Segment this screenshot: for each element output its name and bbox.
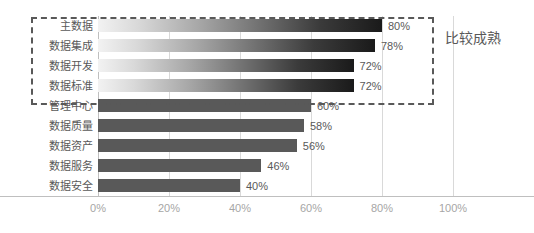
x-axis-line [0, 196, 534, 197]
bar [98, 79, 354, 92]
category-label: 数据集成 [0, 38, 93, 54]
bar [98, 139, 297, 152]
bar-row: 管理中心60% [0, 96, 534, 116]
category-label: 数据质量 [0, 118, 93, 134]
bar-value-label: 56% [303, 138, 325, 154]
bar-row: 数据安全40% [0, 176, 534, 196]
mature-group-annotation: 比较成熟 [445, 28, 501, 48]
category-label: 数据安全 [0, 178, 93, 194]
maturity-bar-chart: 主数据80%数据集成78%数据开发72%数据标准72%管理中心60%数据质量58… [0, 0, 534, 233]
category-label: 数据开发 [0, 58, 93, 74]
x-tick-label: 40% [210, 200, 270, 216]
category-label: 数据资产 [0, 138, 93, 154]
bar [98, 119, 304, 132]
bar-value-label: 40% [246, 178, 268, 194]
bar-value-label: 60% [317, 98, 339, 114]
bar-row: 数据开发72% [0, 56, 534, 76]
bar-value-label: 78% [381, 38, 403, 54]
category-label: 主数据 [0, 18, 93, 34]
bar-value-label: 58% [310, 118, 332, 134]
bar-row: 数据标准72% [0, 76, 534, 96]
x-tick-label: 80% [352, 200, 412, 216]
bar [98, 99, 311, 112]
x-tick-label: 60% [281, 200, 341, 216]
bar-row: 数据资产56% [0, 136, 534, 156]
x-axis-tick-labels: 0%20%40%60%80%100% [0, 200, 534, 220]
bar [98, 159, 261, 172]
bar [98, 39, 375, 52]
x-tick-label: 20% [139, 200, 199, 216]
category-label: 数据标准 [0, 78, 93, 94]
bar [98, 19, 382, 32]
bar-value-label: 72% [360, 78, 382, 94]
bar [98, 179, 240, 192]
x-tick-label: 100% [423, 200, 483, 216]
bar-row: 数据服务46% [0, 156, 534, 176]
bar-row: 数据质量58% [0, 116, 534, 136]
category-label: 数据服务 [0, 158, 93, 174]
bar-value-label: 46% [267, 158, 289, 174]
category-label: 管理中心 [0, 98, 93, 114]
bar-value-label: 72% [360, 58, 382, 74]
bar-value-label: 80% [388, 18, 410, 34]
x-tick-label: 0% [68, 200, 128, 216]
bar [98, 59, 354, 72]
